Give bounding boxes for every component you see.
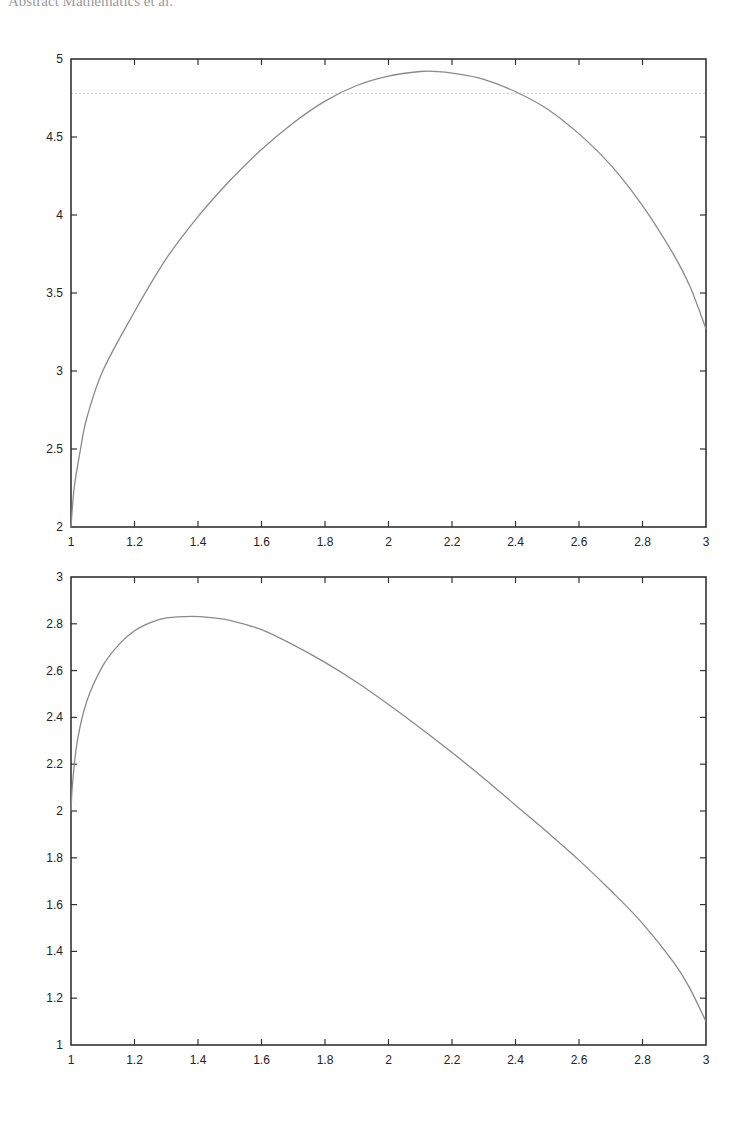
y-tick-label: 1 [56, 1038, 63, 1052]
plot-frame [71, 577, 706, 1045]
y-tick-label: 3 [56, 364, 63, 378]
x-tick-label: 1.8 [317, 1053, 334, 1067]
x-tick-label: 2.4 [507, 1053, 524, 1067]
x-tick-label: 1.6 [253, 535, 270, 549]
y-tick-label: 2.2 [46, 757, 63, 771]
x-tick-label: 3 [703, 1053, 710, 1067]
x-tick-label: 1 [68, 1053, 75, 1067]
x-tick-label: 2.4 [507, 535, 524, 549]
y-tick-label: 1.8 [46, 851, 63, 865]
y-tick-label: 2 [56, 804, 63, 818]
x-tick-label: 2.2 [444, 535, 461, 549]
y-tick-label: 4.5 [46, 130, 63, 144]
series-line-curve [71, 616, 706, 1021]
x-tick-label: 2.8 [634, 535, 651, 549]
x-tick-label: 1.6 [253, 1053, 270, 1067]
x-tick-label: 1.2 [126, 535, 143, 549]
y-tick-label: 5 [56, 52, 63, 66]
y-tick-label: 2.8 [46, 617, 63, 631]
x-tick-label: 1.4 [190, 1053, 207, 1067]
x-tick-label: 2.8 [634, 1053, 651, 1067]
y-tick-label: 1.6 [46, 898, 63, 912]
x-tick-label: 3 [703, 535, 710, 549]
x-tick-label: 1.2 [126, 1053, 143, 1067]
charts-canvas: 11.21.41.61.822.22.42.62.8322.533.544.55… [0, 0, 753, 1127]
y-tick-label: 4 [56, 208, 63, 222]
x-tick-label: 2 [385, 1053, 392, 1067]
x-tick-label: 1 [68, 535, 75, 549]
y-tick-label: 2.5 [46, 442, 63, 456]
top-plot: 11.21.41.61.822.22.42.62.8322.533.544.55 [46, 52, 709, 549]
x-tick-label: 1.8 [317, 535, 334, 549]
bottom-plot: 11.21.41.61.822.22.42.62.8311.21.41.61.8… [46, 570, 709, 1067]
x-tick-label: 2 [385, 535, 392, 549]
y-tick-label: 1.4 [46, 944, 63, 958]
y-tick-label: 2.6 [46, 664, 63, 678]
y-tick-label: 2.4 [46, 710, 63, 724]
x-tick-label: 2.2 [444, 1053, 461, 1067]
y-tick-label: 1.2 [46, 991, 63, 1005]
plot-frame [71, 59, 706, 527]
y-tick-label: 3.5 [46, 286, 63, 300]
series-line-curve [71, 71, 706, 527]
x-tick-label: 1.4 [190, 535, 207, 549]
x-tick-label: 2.6 [571, 535, 588, 549]
y-tick-label: 2 [56, 520, 63, 534]
x-tick-label: 2.6 [571, 1053, 588, 1067]
y-tick-label: 3 [56, 570, 63, 584]
